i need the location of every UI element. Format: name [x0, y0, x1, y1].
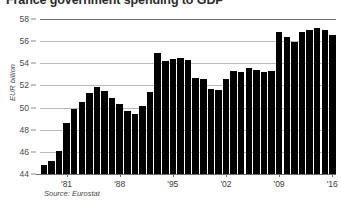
bar — [177, 58, 184, 174]
source-note: Source: Eurostat — [44, 189, 100, 198]
bar — [94, 87, 101, 174]
bar — [71, 109, 78, 174]
y-axis-tick-mark — [31, 63, 36, 64]
bar — [192, 78, 199, 174]
y-axis-tick-mark — [31, 129, 36, 130]
y-axis-tick-mark — [31, 19, 36, 20]
bar — [185, 60, 192, 174]
y-axis-tick-label: 50 — [20, 103, 29, 113]
bar — [284, 37, 291, 174]
y-axis-tick-label: 54 — [20, 58, 29, 68]
x-axis-tick-label: '09 — [274, 179, 285, 189]
bar — [215, 90, 222, 174]
y-axis-tick-label: 56 — [20, 36, 29, 46]
y-axis-tick-label: 48 — [20, 125, 29, 135]
bar — [314, 28, 321, 174]
bar — [139, 106, 146, 174]
y-axis-tick-mark — [31, 107, 36, 108]
x-axis-tick-label: '02 — [220, 179, 231, 189]
bar — [101, 91, 108, 174]
bar — [79, 102, 86, 174]
bar — [208, 89, 215, 174]
x-axis-tick-label: '16 — [327, 179, 338, 189]
x-axis-tick-label: '95 — [167, 179, 178, 189]
x-axis-tick-mark — [173, 174, 174, 177]
y-axis-tick-label: 52 — [20, 80, 29, 90]
bar — [41, 165, 48, 174]
y-axis-tick-mark — [31, 41, 36, 42]
bar — [147, 92, 154, 174]
bar — [329, 35, 336, 175]
x-axis-tick-label: '88 — [114, 179, 125, 189]
bar — [268, 71, 275, 174]
x-axis-tick-mark — [226, 174, 227, 177]
bar — [246, 68, 253, 174]
bar — [223, 79, 230, 174]
bar — [132, 114, 139, 174]
bar — [116, 104, 123, 174]
plot-area — [40, 19, 336, 174]
bar — [154, 53, 161, 174]
y-axis-tick-mark — [31, 85, 36, 86]
bar — [63, 123, 70, 174]
bar — [306, 30, 313, 174]
bar — [170, 59, 177, 174]
bar — [238, 72, 245, 174]
bar — [56, 151, 63, 174]
bar — [299, 32, 306, 174]
bar — [253, 70, 260, 174]
y-axis-tick-group: 5856545250484644 — [0, 19, 36, 174]
bar — [109, 98, 116, 174]
chart-figure: France government spending to GDP EUR bi… — [0, 0, 341, 201]
bar — [291, 42, 298, 174]
bar — [322, 30, 329, 174]
x-axis-tick-mark — [332, 174, 333, 177]
y-axis-tick-label: 46 — [20, 147, 29, 157]
bar — [162, 61, 169, 174]
bar — [124, 111, 131, 174]
y-axis-tick-label: 58 — [20, 14, 29, 24]
x-axis-tick-mark — [279, 174, 280, 177]
x-axis-tick-mark — [67, 174, 68, 177]
bar — [230, 71, 237, 174]
bar — [86, 93, 93, 174]
bar — [276, 32, 283, 174]
chart-title: France government spending to GDP — [6, 0, 336, 7]
x-axis-tick-mark — [120, 174, 121, 177]
bar — [261, 72, 268, 174]
x-axis-tick-label: '81 — [61, 179, 72, 189]
bar-series — [40, 19, 336, 174]
y-axis-tick-mark — [31, 151, 36, 152]
y-axis-tick-label: 44 — [20, 169, 29, 179]
bar — [48, 161, 55, 174]
bar — [200, 79, 207, 174]
